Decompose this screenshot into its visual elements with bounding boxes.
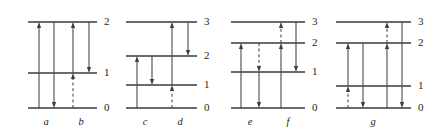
energy-level-label-2: 2	[204, 49, 210, 61]
arrow-up-0-to-2-head	[279, 43, 283, 49]
panel-label-c: c	[143, 116, 148, 127]
arrow-up-2-to-3-dashed-head	[385, 22, 389, 28]
energy-level-label-0: 0	[104, 101, 110, 113]
arrow-down-2-to-1-head	[150, 79, 154, 85]
arrow-down-3-to-0-head	[400, 102, 404, 108]
diagram-canvas: 210ab3210cd3210ef3210g	[0, 0, 438, 140]
arrow-down-1-to-0-head	[257, 102, 261, 108]
arrow-up-1-to-2-head	[346, 43, 350, 49]
energy-level-diagram-figure: 210ab3210cd3210ef3210g	[0, 0, 438, 140]
arrow-down-2-to-0-head	[361, 102, 365, 108]
arrow-down-2-to-1-head	[87, 67, 91, 73]
energy-level-label-0: 0	[312, 101, 318, 113]
energy-level-label-2: 2	[312, 36, 318, 48]
energy-level-label-1: 1	[204, 78, 210, 90]
arrow-up-2-to-3-dashed-head	[279, 22, 283, 28]
panel-3: 3210ef	[231, 15, 318, 127]
arrow-down-2-to-1-dashed-head	[257, 66, 261, 72]
arrow-up-0-to-2-head	[385, 43, 389, 49]
arrow-down-2-to-0-head	[52, 102, 56, 108]
arrow-up-0-to-1-dashed-head	[170, 85, 174, 91]
energy-level-label-3: 3	[312, 15, 318, 27]
arrow-up-0-to-1-dashed-head	[71, 73, 75, 79]
panel-label-b: b	[78, 116, 83, 127]
energy-level-label-3: 3	[418, 15, 424, 27]
energy-level-label-2: 2	[418, 36, 424, 48]
energy-level-label-1: 1	[312, 65, 318, 77]
energy-level-label-1: 1	[418, 79, 424, 91]
energy-level-label-0: 0	[204, 101, 210, 113]
panel-label-a: a	[43, 116, 48, 127]
panel-label-d: d	[177, 116, 183, 127]
panel-4: 3210g	[336, 15, 424, 127]
panel-label-e: e	[248, 116, 253, 127]
arrow-down-3-to-2-head	[186, 50, 190, 56]
energy-level-label-2: 2	[104, 15, 110, 27]
arrow-up-1-to-3-head	[170, 22, 174, 28]
panel-label-f: f	[287, 116, 292, 127]
energy-level-label-3: 3	[204, 15, 210, 27]
arrow-up-0-to-2-head	[37, 22, 41, 28]
energy-level-label-0: 0	[418, 101, 424, 113]
energy-level-label-1: 1	[104, 66, 110, 78]
arrow-down-3-to-1-head	[294, 66, 298, 72]
arrow-up-0-to-1-dashed-head	[346, 86, 350, 92]
arrow-up-1-to-2-head	[239, 43, 243, 49]
panel-2: 3210cd	[126, 15, 210, 127]
arrow-up-1-to-2-head	[71, 22, 75, 28]
arrow-up-0-to-2-head	[135, 56, 139, 62]
panel-label-g: g	[370, 116, 375, 127]
panel-1: 210ab	[28, 15, 110, 127]
